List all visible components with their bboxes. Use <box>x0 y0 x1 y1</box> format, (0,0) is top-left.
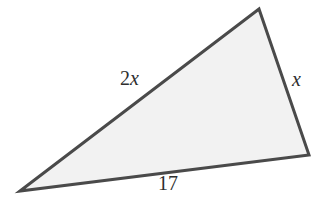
side-label-x-variable: x <box>292 68 301 90</box>
side-label-2x-coefficient: 2 <box>120 67 130 89</box>
triangle-shape <box>20 9 309 191</box>
side-label-2x-variable: x <box>130 67 139 89</box>
side-label-17: 17 <box>158 173 178 193</box>
side-label-2x: 2x <box>120 68 139 88</box>
triangle-figure: 2x x 17 <box>0 0 334 206</box>
side-label-x: x <box>292 69 301 89</box>
side-label-17-value: 17 <box>158 172 178 194</box>
